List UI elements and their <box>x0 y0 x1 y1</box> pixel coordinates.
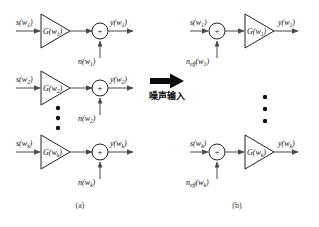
figure-container: + s(w1) G(w1) n(w1) y(w1) + s(w2) G(w2) … <box>0 0 319 227</box>
gain-label: G(w2) <box>43 84 63 94</box>
sum-plus-symbol: + <box>214 147 219 157</box>
input-signal-label: s(w1) <box>190 18 207 28</box>
sum-plus-symbol: + <box>97 26 102 36</box>
noise-label: neff(wk) <box>186 178 209 188</box>
block-diagram-svg: + s(w1) G(w1) n(w1) y(w1) + s(w2) G(w2) … <box>0 0 319 227</box>
panel-a-caption: (a) <box>76 201 85 210</box>
input-signal-label: s(wk) <box>190 139 207 149</box>
output-signal-label: y(wk) <box>109 139 127 149</box>
panel-b-caption: (b) <box>232 201 242 210</box>
output-signal-label: y(wk) <box>277 139 295 149</box>
noise-label: n(w2) <box>78 114 96 124</box>
gain-label: G(wk) <box>247 148 266 158</box>
ellipsis-dot <box>263 107 267 111</box>
noise-label: neff(w1) <box>186 57 209 67</box>
output-signal-label: y(w2) <box>109 75 127 85</box>
gain-label: G(w1) <box>247 27 267 37</box>
sum-plus-symbol: + <box>214 26 219 36</box>
gain-label: G(wk) <box>43 148 62 158</box>
sum-plus-symbol: + <box>97 83 102 93</box>
ellipsis-dot <box>263 119 267 123</box>
ellipsis-dot <box>263 95 267 99</box>
sum-plus-symbol: + <box>97 147 102 157</box>
noise-label: n(w1) <box>78 57 96 67</box>
output-signal-label: y(w1) <box>109 18 127 28</box>
panel-a-vertical-ellipsis <box>56 106 60 130</box>
ellipsis-dot <box>56 116 60 120</box>
gain-label: G(w1) <box>43 27 63 37</box>
input-signal-label: s(wk) <box>16 139 33 149</box>
input-signal-label: s(w2) <box>16 75 33 85</box>
transform-caption: 噪声输入 <box>149 90 185 101</box>
input-signal-label: s(w1) <box>16 18 33 28</box>
ellipsis-dot <box>56 106 60 110</box>
ellipsis-dot <box>56 126 60 130</box>
noise-label: n(wk) <box>78 178 95 188</box>
output-signal-label: y(w1) <box>277 18 295 28</box>
